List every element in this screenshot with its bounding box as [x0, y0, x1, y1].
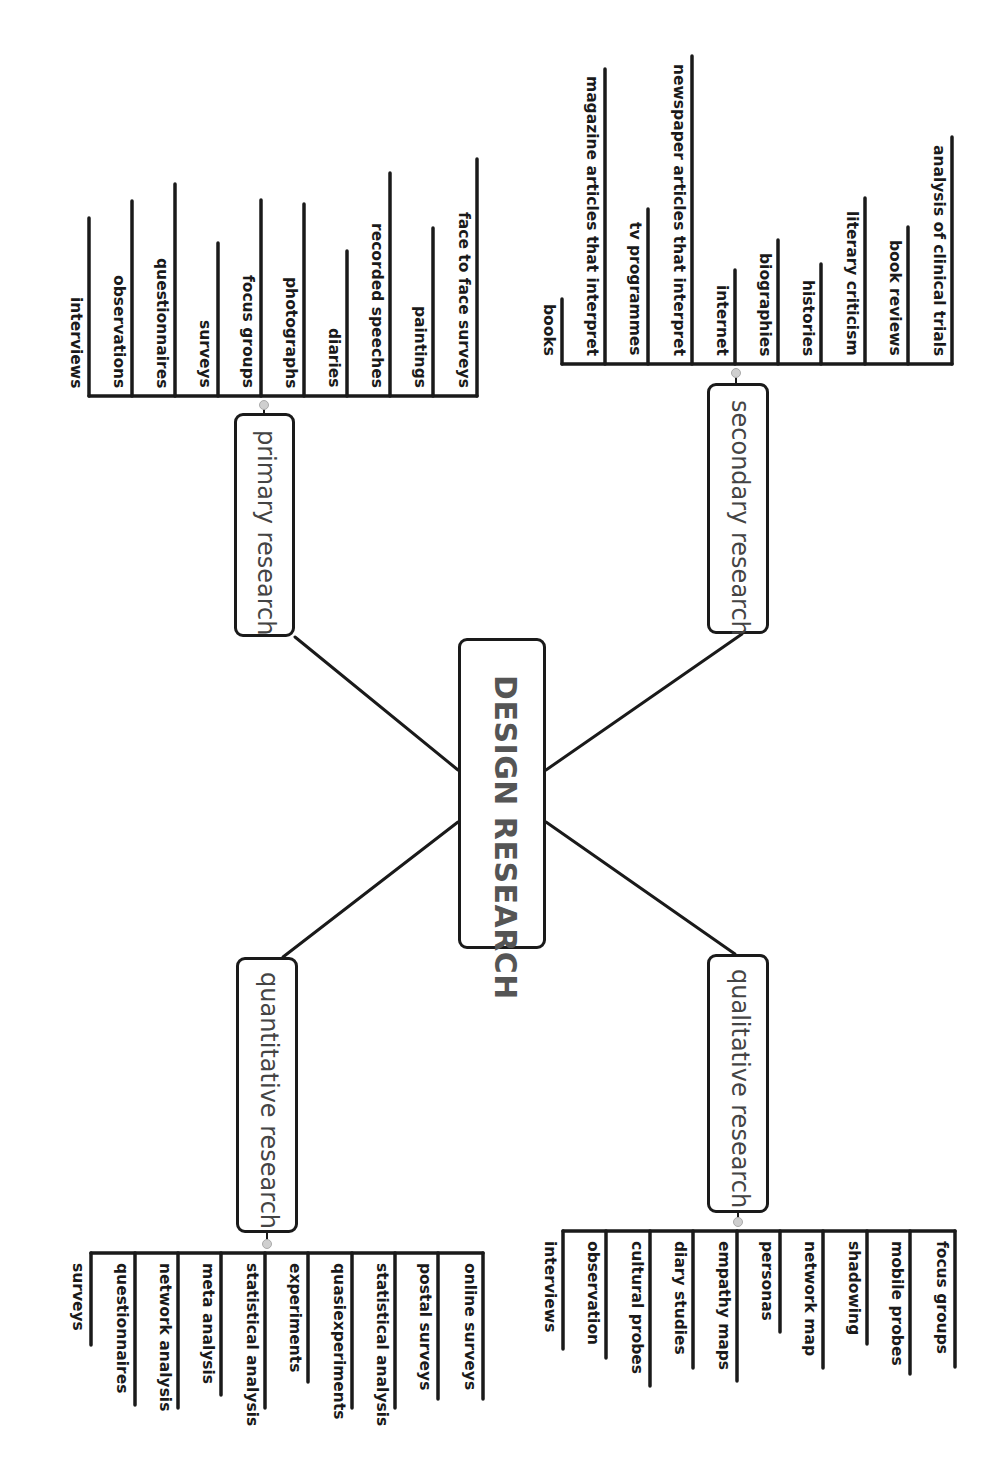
- leaf-qualitative-5[interactable]: personas: [758, 1241, 776, 1321]
- leaf-quantitative-5[interactable]: experiments: [286, 1263, 304, 1372]
- leaf-secondary-5[interactable]: biographies: [756, 253, 774, 356]
- branch-node-quantitative[interactable]: quantitative research: [236, 957, 298, 1233]
- leaf-qualitative-9[interactable]: focus groups: [933, 1241, 951, 1354]
- collapse-knob-quantitative[interactable]: [262, 1239, 272, 1249]
- leaf-secondary-3[interactable]: newspaper articles that interpret: [670, 64, 688, 356]
- leaf-primary-8[interactable]: paintings: [411, 306, 429, 388]
- center-node[interactable]: DESIGN RESEARCH: [458, 638, 546, 949]
- branch-label-quantitative: quantitative research: [255, 972, 283, 1229]
- leaf-qualitative-7[interactable]: shadowing: [845, 1241, 863, 1335]
- mind-map-canvas: DESIGN RESEARCH primary research seconda…: [0, 0, 998, 1462]
- leaf-qualitative-0[interactable]: interviews: [541, 1241, 559, 1332]
- leaf-primary-1[interactable]: observations: [110, 275, 128, 388]
- leaf-secondary-2[interactable]: tv programmes: [626, 222, 644, 356]
- leaf-secondary-7[interactable]: literary criticism: [843, 211, 861, 356]
- leaf-qualitative-4[interactable]: empathy maps: [715, 1241, 733, 1370]
- connector-line: [546, 634, 742, 770]
- leaf-quantitative-0[interactable]: surveys: [69, 1263, 87, 1331]
- leaf-quantitative-7[interactable]: statistical analysis: [373, 1263, 391, 1426]
- branch-label-primary: primary research: [252, 430, 280, 635]
- leaf-quantitative-4[interactable]: statistical analysis: [243, 1263, 261, 1426]
- leaf-qualitative-6[interactable]: network map: [801, 1241, 819, 1356]
- branch-label-qualitative: qualitative research: [726, 969, 754, 1208]
- leaf-quantitative-8[interactable]: postal surveys: [416, 1263, 434, 1390]
- leaf-primary-7[interactable]: recorded speeches: [368, 223, 386, 388]
- leaf-quantitative-1[interactable]: questionnaires: [113, 1263, 131, 1393]
- leaf-secondary-6[interactable]: histories: [799, 280, 817, 356]
- leaf-secondary-8[interactable]: book reviews: [886, 240, 904, 356]
- collapse-knob-secondary[interactable]: [731, 368, 741, 378]
- center-node-label: DESIGN RESEARCH: [488, 675, 523, 1000]
- leaf-qualitative-2[interactable]: cultural probes: [628, 1241, 646, 1374]
- leaf-primary-2[interactable]: questionnaires: [153, 258, 171, 388]
- leaf-quantitative-3[interactable]: meta analysis: [199, 1263, 217, 1384]
- leaf-qualitative-8[interactable]: mobile probes: [888, 1241, 906, 1366]
- leaf-primary-5[interactable]: photographs: [282, 277, 300, 388]
- leaf-quantitative-2[interactable]: network analysis: [156, 1263, 174, 1411]
- leaf-quantitative-9[interactable]: online surveys: [461, 1263, 479, 1390]
- leaf-primary-6[interactable]: diaries: [325, 328, 343, 388]
- branch-node-primary[interactable]: primary research: [234, 413, 295, 637]
- leaf-secondary-1[interactable]: magazine articles that interpret: [583, 76, 601, 356]
- leaf-secondary-9[interactable]: analysis of clinical trials: [930, 145, 948, 356]
- leaf-secondary-4[interactable]: internet: [713, 285, 731, 356]
- branch-node-qualitative[interactable]: qualitative research: [707, 954, 769, 1213]
- leaf-primary-3[interactable]: surveys: [196, 320, 214, 388]
- leaf-quantitative-6[interactable]: quasiexperiments: [330, 1263, 348, 1420]
- branch-node-secondary[interactable]: secondary research: [707, 383, 769, 634]
- leaf-qualitative-3[interactable]: diary studies: [671, 1241, 689, 1355]
- leaf-primary-0[interactable]: interviews: [67, 297, 85, 388]
- leaf-primary-9[interactable]: face to face surveys: [455, 212, 473, 388]
- leaf-qualitative-1[interactable]: observation: [584, 1241, 602, 1345]
- collapse-knob-qualitative[interactable]: [733, 1217, 743, 1227]
- connector-line: [546, 822, 735, 954]
- leaf-secondary-0[interactable]: books: [540, 304, 558, 356]
- connector-line: [283, 822, 458, 957]
- collapse-knob-primary[interactable]: [259, 400, 269, 410]
- leaf-primary-4[interactable]: focus groups: [239, 275, 257, 388]
- connector-line: [295, 637, 458, 770]
- branch-label-secondary: secondary research: [726, 400, 754, 636]
